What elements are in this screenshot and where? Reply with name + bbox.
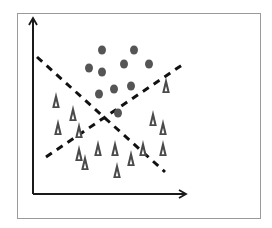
circle-point bbox=[110, 84, 118, 93]
circle-point bbox=[95, 89, 103, 98]
circle-points bbox=[85, 45, 153, 117]
triangle-points bbox=[52, 77, 170, 178]
circle-point bbox=[127, 81, 135, 90]
triangle-point bbox=[159, 140, 167, 156]
circle-point bbox=[98, 67, 106, 76]
scatter-diagram bbox=[0, 0, 272, 228]
triangle-point bbox=[149, 110, 157, 126]
triangle-point bbox=[127, 150, 135, 166]
triangle-point bbox=[52, 92, 60, 108]
circle-point bbox=[114, 108, 122, 117]
triangle-point bbox=[162, 77, 170, 93]
triangle-point bbox=[159, 119, 167, 135]
circle-point bbox=[145, 59, 153, 68]
triangle-point bbox=[54, 119, 62, 135]
triangle-point bbox=[75, 145, 83, 161]
triangle-point bbox=[81, 154, 89, 170]
triangle-point bbox=[94, 140, 102, 156]
triangle-point bbox=[75, 122, 83, 138]
triangle-point bbox=[113, 162, 121, 178]
circle-point bbox=[98, 45, 106, 54]
circle-point bbox=[130, 45, 138, 54]
triangle-point bbox=[69, 105, 77, 121]
circle-point bbox=[85, 63, 93, 72]
circle-point bbox=[120, 59, 128, 68]
triangle-point bbox=[111, 140, 119, 156]
triangle-point bbox=[139, 140, 147, 156]
